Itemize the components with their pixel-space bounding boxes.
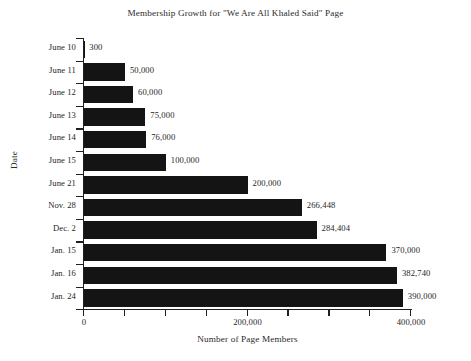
y-axis-tick: [76, 106, 83, 107]
y-axis-tick-label: Jan. 15: [51, 245, 76, 255]
bar: [84, 176, 248, 193]
y-axis-tick-label: Jan. 16: [51, 268, 76, 278]
bar-value-label: 266,448: [307, 200, 336, 210]
bar-row: 382,740: [84, 264, 411, 287]
bar: [84, 289, 403, 306]
y-axis-tick-label: June 21: [49, 178, 76, 188]
bar-value-label: 300: [89, 42, 102, 52]
bar: [84, 267, 397, 284]
bar-value-label: 370,000: [391, 245, 420, 255]
bar-row: 284,404: [84, 219, 411, 242]
bar: [84, 154, 166, 171]
y-axis-tick-label: June 14: [49, 132, 76, 142]
bar-row: 100,000: [84, 151, 411, 174]
x-axis-tick-label: 200,000: [233, 317, 262, 327]
bar: [84, 131, 146, 148]
x-axis-tick: [165, 310, 166, 316]
bar: [84, 108, 145, 125]
bar-row: 75,000: [84, 106, 411, 129]
bar: [84, 86, 133, 103]
x-axis-tick: [124, 310, 125, 316]
y-axis-tick-label: June 10: [49, 42, 76, 52]
x-axis-tick: [328, 310, 329, 316]
bar-value-label: 75,000: [150, 110, 174, 120]
y-axis-tick: [76, 219, 83, 220]
bar-row: 300: [84, 38, 411, 61]
bar-value-label: 284,404: [322, 223, 351, 233]
y-axis-tick: [76, 196, 83, 197]
y-axis-tick-labels: June 10June 11June 12June 13June 14June …: [0, 38, 76, 309]
y-axis-tick-label: June 11: [49, 65, 76, 75]
bar-row: 200,000: [84, 174, 411, 197]
y-axis-tick: [76, 241, 83, 242]
x-axis-tick: [287, 310, 288, 316]
bar: [84, 63, 125, 80]
x-axis-tick: [369, 310, 370, 316]
y-axis-tick-label: June 12: [49, 87, 76, 97]
bar: [84, 244, 386, 261]
y-axis-tick: [76, 174, 83, 175]
bar-row: 266,448: [84, 196, 411, 219]
y-axis-tick-label: June 13: [49, 110, 76, 120]
chart-title: Membership Growth for "We Are All Khaled…: [0, 8, 471, 18]
x-axis-tick: [83, 310, 84, 316]
y-axis-tick: [76, 287, 83, 288]
bar-value-label: 100,000: [171, 155, 200, 165]
y-axis-tick-label: Jan. 24: [51, 291, 76, 301]
y-axis-tick: [76, 264, 83, 265]
bar-value-label: 50,000: [130, 65, 154, 75]
y-axis-tick-label: Nov. 28: [48, 200, 76, 210]
y-axis-tick: [76, 83, 83, 84]
x-axis-tick-label: 400,000: [397, 317, 426, 327]
bar-chart: Membership Growth for "We Are All Khaled…: [0, 0, 471, 361]
x-axis-tick: [206, 310, 207, 316]
y-axis-tick: [76, 128, 83, 129]
bar-value-label: 382,740: [402, 268, 431, 278]
bar: [84, 199, 302, 216]
bar-value-label: 390,000: [408, 291, 437, 301]
y-axis-tick-label: Dec. 2: [53, 223, 76, 233]
y-axis-tick: [76, 38, 83, 39]
bar-row: 76,000: [84, 128, 411, 151]
bar-row: 370,000: [84, 241, 411, 264]
bar-row: 390,000: [84, 287, 411, 310]
bar-row: 50,000: [84, 61, 411, 84]
y-axis-tick: [76, 151, 83, 152]
plot-area: 30050,00060,00075,00076,000100,000200,00…: [84, 38, 411, 309]
x-axis-tick-label: 0: [82, 317, 86, 327]
y-axis-tick: [76, 61, 83, 62]
y-axis-tick: [76, 309, 83, 310]
bar-value-label: 200,000: [253, 178, 282, 188]
bar-value-label: 76,000: [151, 132, 175, 142]
x-axis-tick: [247, 310, 248, 316]
y-axis-tick-label: June 15: [49, 155, 76, 165]
bar-row: 60,000: [84, 83, 411, 106]
bar: [84, 221, 317, 238]
bar-value-label: 60,000: [138, 87, 162, 97]
x-axis-title: Number of Page Members: [84, 334, 411, 344]
x-axis-tick: [410, 310, 411, 316]
